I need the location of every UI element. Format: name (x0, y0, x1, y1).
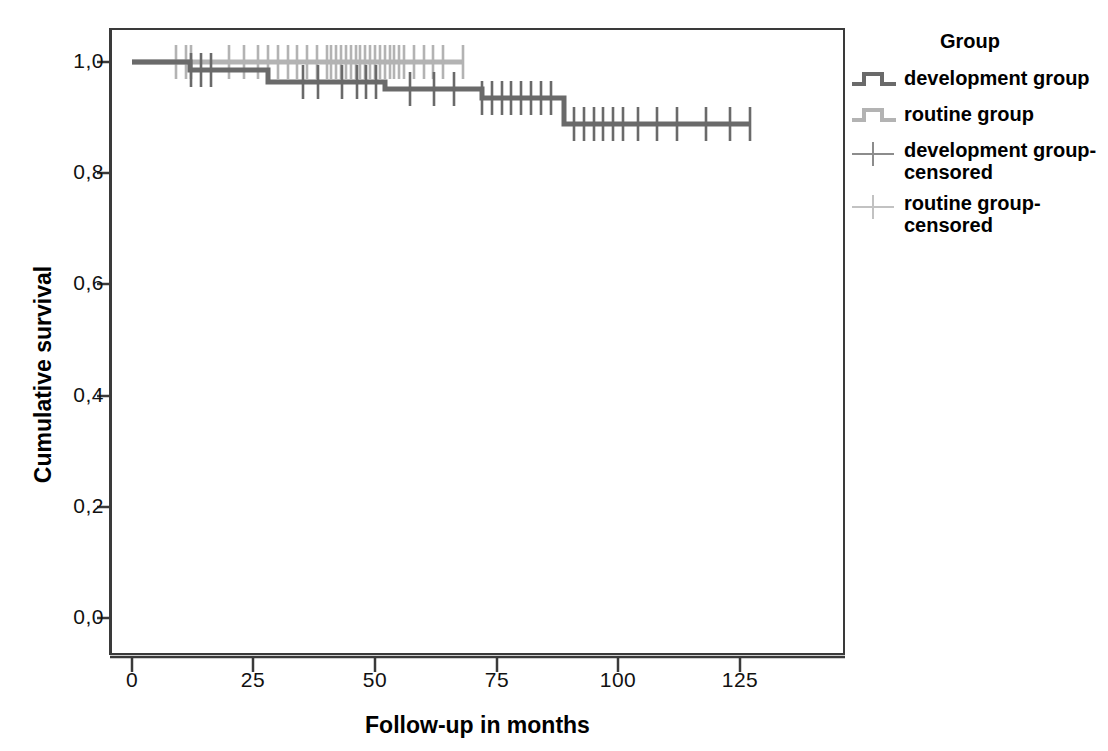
y-axis-title: Cumulative survival (30, 164, 57, 584)
x-tick-label-100: 100 (578, 668, 658, 692)
x-tick-label-50: 50 (335, 668, 415, 692)
x-axis-title: Follow-up in months (110, 712, 845, 739)
plus-mark-icon-routine-censored (852, 194, 898, 220)
legend-title: Group (852, 30, 1088, 53)
legend-item-development-group-censored[interactable]: development group-censored (852, 139, 1102, 184)
y-tick-label-0-0: 0,0 (40, 605, 104, 629)
step-line-icon-routine (852, 105, 898, 131)
step-line-icon-development (852, 69, 898, 95)
x-tick-label-125: 125 (700, 668, 780, 692)
y-axis: 1,0 0,8 0,6 0,4 0,2 0,0 Cumulative survi… (0, 0, 104, 751)
series-development-group (132, 53, 750, 141)
legend-label-development-group: development group (904, 67, 1090, 89)
survival-chart-figure: 1,0 0,8 0,6 0,4 0,2 0,0 Cumulative survi… (0, 0, 1108, 751)
legend-label-routine-group-censored: routine group-censored (904, 192, 1100, 237)
x-tick-label-0: 0 (92, 668, 172, 692)
chart-legend: Group development group routine group (852, 30, 1102, 245)
legend-label-development-group-censored: development group-censored (904, 139, 1100, 184)
legend-item-routine-group-censored[interactable]: routine group-censored (852, 192, 1102, 237)
development-group-censor-marks (191, 53, 750, 141)
x-tick-label-75: 75 (457, 668, 537, 692)
y-tick-label-1-0: 1,0 (40, 49, 104, 73)
plus-mark-icon-development-censored (852, 141, 898, 167)
x-tick-label-25: 25 (213, 668, 293, 692)
legend-label-routine-group: routine group (904, 103, 1034, 125)
legend-item-development-group[interactable]: development group (852, 67, 1102, 95)
legend-item-routine-group[interactable]: routine group (852, 103, 1102, 131)
